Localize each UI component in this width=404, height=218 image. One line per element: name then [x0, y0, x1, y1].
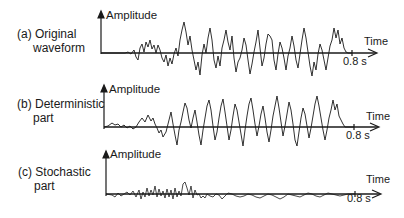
- waveform-stochastic: [106, 182, 355, 199]
- waveform-deterministic: [104, 96, 354, 146]
- waveform-plots: [0, 0, 404, 218]
- y-axis-arrow-icon: [98, 11, 104, 18]
- y-axis-arrow-icon: [101, 85, 107, 92]
- waveform-original: [101, 22, 352, 76]
- y-axis-arrow-icon: [103, 151, 109, 158]
